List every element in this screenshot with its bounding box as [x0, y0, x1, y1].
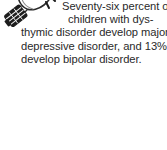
- tip-text-line-5: develop bipolar disorder.: [0, 53, 167, 66]
- tip-text-line-3: thymic disorder develop major: [0, 26, 167, 39]
- tip-text-line-4: depressive disorder, and 13%: [0, 40, 167, 53]
- tip-text-line-2: children with dys-: [0, 13, 167, 26]
- did-you-know-callout: Seventy-six percent of children with dys…: [0, 0, 167, 150]
- tip-text-line-1: Seventy-six percent of: [0, 0, 167, 13]
- tip-text-block: Seventy-six percent of children with dys…: [0, 0, 167, 66]
